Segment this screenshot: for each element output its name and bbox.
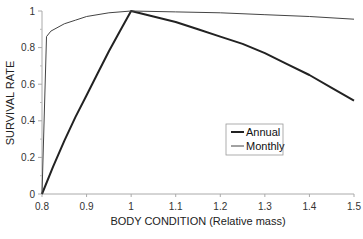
x-tick-label: 0.9 xyxy=(80,201,94,212)
x-tick-label: 1.3 xyxy=(258,201,272,212)
y-axis: 00.20.40.60.81 xyxy=(21,6,42,200)
x-axis: 0.80.911.11.21.31.41.5 xyxy=(35,194,361,212)
x-tick-label: 1.4 xyxy=(302,201,316,212)
legend: Annual Monthly xyxy=(226,124,285,155)
y-axis-title: SURVIVAL RATE xyxy=(4,61,16,146)
series-line-monthly xyxy=(42,11,354,194)
x-tick-label: 0.8 xyxy=(35,201,49,212)
y-tick-label: 0.6 xyxy=(21,79,35,90)
y-tick-label: 0.4 xyxy=(21,115,35,126)
series-layer xyxy=(42,11,354,194)
y-tick-label: 0.2 xyxy=(21,152,35,163)
y-tick-label: 1 xyxy=(29,6,35,17)
x-tick-label: 1.5 xyxy=(347,201,361,212)
line-chart: 00.20.40.60.81 0.80.911.11.21.31.41.5 SU… xyxy=(0,0,363,239)
x-tick-label: 1.1 xyxy=(169,201,183,212)
y-tick-label: 0 xyxy=(29,189,35,200)
legend-label-annual: Annual xyxy=(246,126,280,138)
x-axis-title: BODY CONDITION (Relative mass) xyxy=(110,215,285,227)
x-tick-label: 1.2 xyxy=(213,201,227,212)
y-tick-label: 0.8 xyxy=(21,42,35,53)
legend-label-monthly: Monthly xyxy=(246,140,285,152)
series-line-annual xyxy=(42,11,354,194)
x-tick-label: 1 xyxy=(128,201,134,212)
